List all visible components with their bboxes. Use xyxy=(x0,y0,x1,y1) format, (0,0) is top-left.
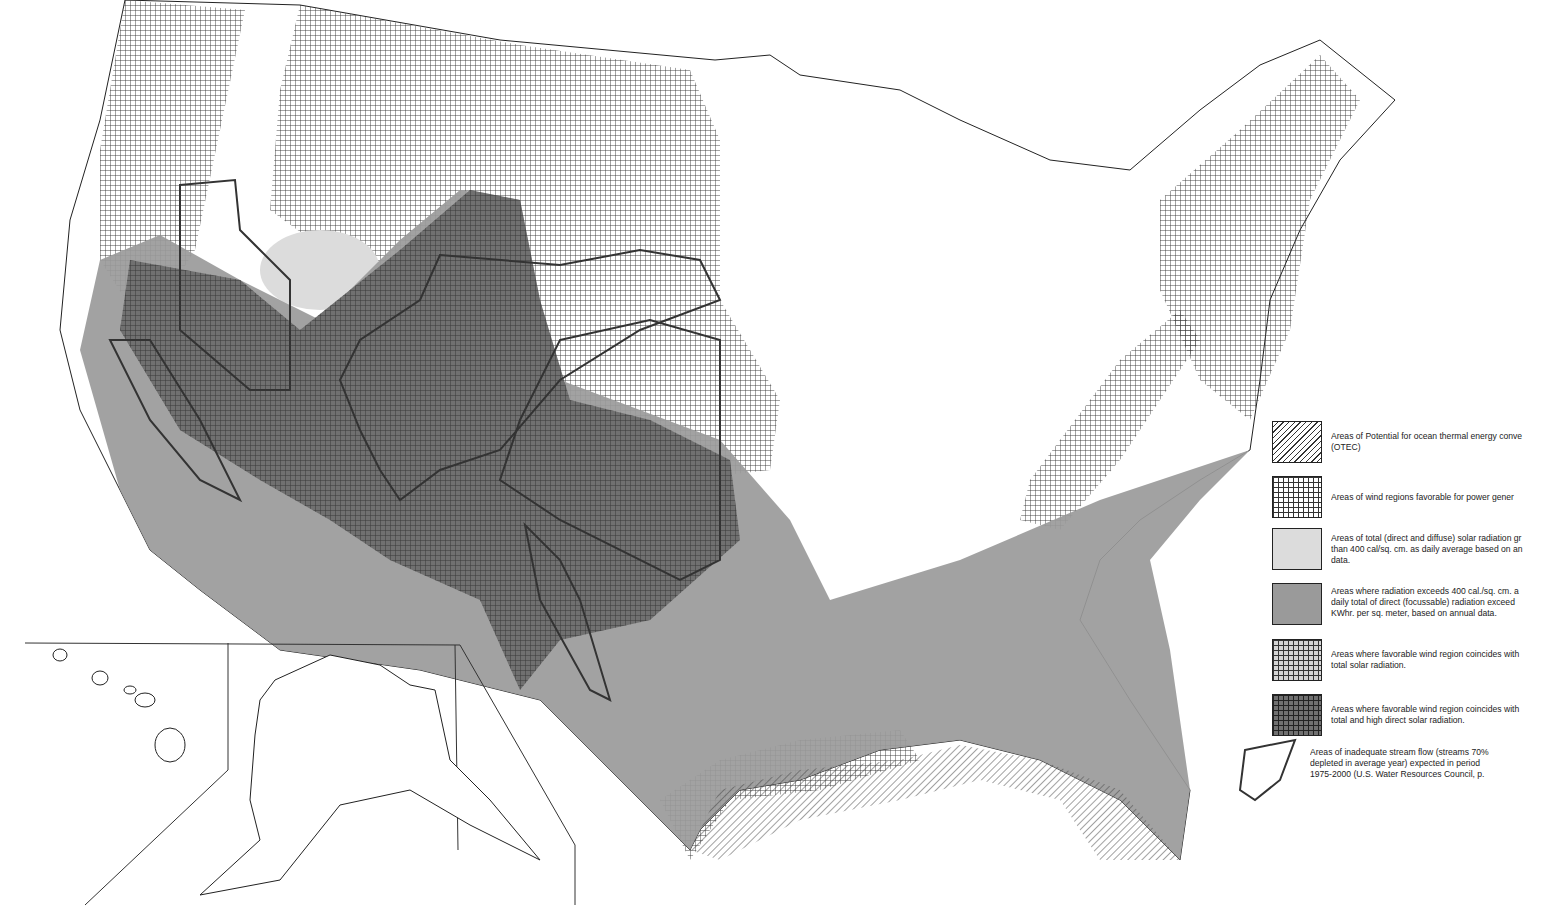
alaska-outline xyxy=(200,655,540,895)
otec-swatch xyxy=(1272,421,1322,463)
legend-text: (OTEC) xyxy=(1331,442,1559,453)
legend-text: KWhr. per sq. meter, based on annual dat… xyxy=(1331,608,1559,619)
legend-text: Areas where favorable wind region coinci… xyxy=(1331,649,1559,660)
wind-swatch xyxy=(1272,476,1322,518)
direct-solar-swatch xyxy=(1272,583,1322,625)
legend-text: Areas of Potential for ocean thermal ene… xyxy=(1331,431,1559,442)
legend-item-total-solar: Areas of total (direct and diffuse) sola… xyxy=(1272,528,1559,576)
legend-text: data. xyxy=(1331,555,1559,566)
legend-text: total solar radiation. xyxy=(1331,660,1559,671)
legend-item-otec: Areas of Potential for ocean thermal ene… xyxy=(1272,421,1559,469)
legend-text: Areas of inadequate stream flow (streams… xyxy=(1310,747,1559,758)
legend-text: Areas where favorable wind region coinci… xyxy=(1331,704,1559,715)
legend-item-wind: Areas of wind regions favorable for powe… xyxy=(1272,476,1559,524)
legend-text: depleted in average year) expected in pe… xyxy=(1310,758,1559,769)
legend-text: daily total of direct (focussable) radia… xyxy=(1331,597,1559,608)
legend-text: than 400 cal/sq. cm. as daily average ba… xyxy=(1331,544,1559,555)
legend-text: 1975-2000 (U.S. Water Resources Council,… xyxy=(1310,769,1559,780)
legend-item-stream-flow: Areas of inadequate stream flow (streams… xyxy=(1272,747,1559,795)
hawaii-islands xyxy=(53,649,185,762)
legend-text: Areas where radiation exceeds 400 cal./s… xyxy=(1331,586,1559,597)
wind-direct-solar-swatch xyxy=(1272,694,1322,736)
legend-text: Areas of wind regions favorable for powe… xyxy=(1331,492,1559,503)
legend-text: Areas of total (direct and diffuse) sola… xyxy=(1331,533,1559,544)
legend-item-wind-direct-solar: Areas where favorable wind region coinci… xyxy=(1272,694,1559,742)
total-solar-swatch xyxy=(1272,528,1322,570)
legend-item-wind-total-solar: Areas where favorable wind region coinci… xyxy=(1272,639,1559,687)
legend-item-direct-solar: Areas where radiation exceeds 400 cal./s… xyxy=(1272,583,1559,631)
legend-text: total and high direct solar radiation. xyxy=(1331,715,1559,726)
wind-total-solar-swatch xyxy=(1272,639,1322,681)
